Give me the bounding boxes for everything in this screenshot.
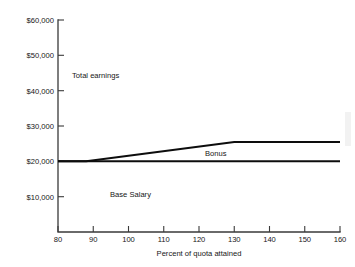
chart-figure: $60,000 $50,000 $40,000 $30,000 $20,000 …	[0, 0, 355, 267]
y-tick-label-30000: $30,000	[27, 122, 54, 131]
y-tick-label-20000: $20,000	[27, 157, 54, 166]
y-axis-ticks	[58, 20, 64, 197]
x-axis-title: Percent of quota attained	[157, 249, 242, 258]
x-tick-label-130: 130	[228, 235, 241, 244]
x-tick-label-160: 160	[334, 235, 347, 244]
x-tick-label-110: 110	[158, 235, 170, 244]
annotation-bonus: Bonus	[205, 149, 227, 158]
annotation-total-earnings: Total earnings	[72, 71, 119, 80]
x-axis-ticks	[58, 226, 340, 232]
earnings-line-chart: $60,000 $50,000 $40,000 $30,000 $20,000 …	[0, 0, 355, 267]
x-tick-label-80: 80	[54, 235, 62, 244]
x-tick-label-100: 100	[122, 235, 135, 244]
axis-frame	[58, 20, 340, 232]
y-tick-label-10000: $10,000	[27, 193, 54, 202]
x-tick-label-120: 120	[193, 235, 206, 244]
y-tick-label-60000: $60,000	[27, 16, 54, 25]
y-axis-labels: $60,000 $50,000 $40,000 $30,000 $20,000 …	[27, 16, 54, 202]
y-tick-label-40000: $40,000	[27, 87, 54, 96]
x-tick-label-90: 90	[89, 235, 97, 244]
series-line-total-earnings	[58, 142, 340, 161]
x-tick-label-150: 150	[298, 235, 311, 244]
axis-lines	[58, 20, 340, 232]
x-tick-label-140: 140	[263, 235, 276, 244]
y-tick-label-50000: $50,000	[27, 51, 54, 60]
annotation-base-salary: Base Salary	[110, 190, 151, 199]
x-axis-labels: 80 90 100 110 120 130 140 150 160	[54, 235, 347, 244]
scan-artifact	[345, 112, 351, 146]
